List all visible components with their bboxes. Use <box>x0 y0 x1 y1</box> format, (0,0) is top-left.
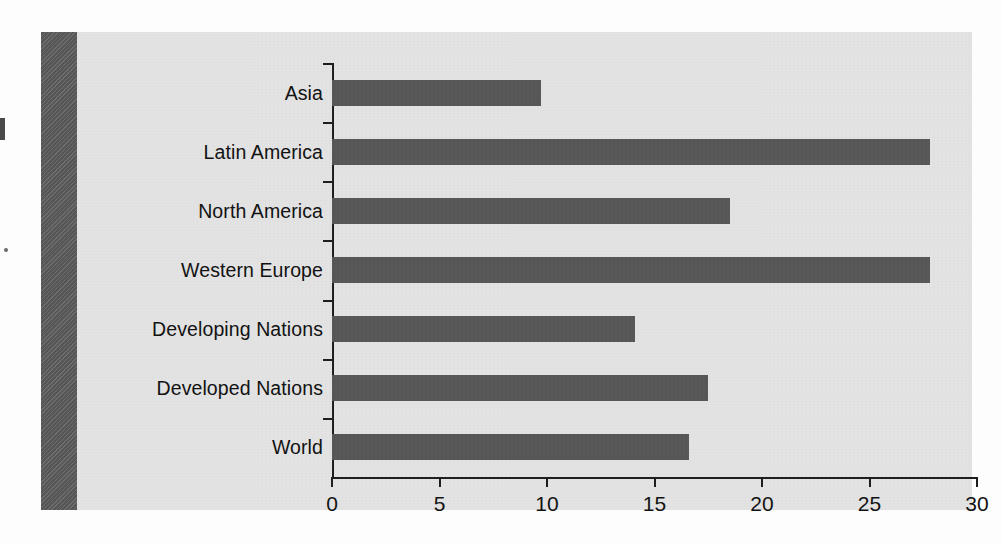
y-axis-tick <box>323 63 333 65</box>
x-axis-tick <box>869 477 871 487</box>
x-axis-tick <box>761 477 763 487</box>
x-axis-tick-label: 20 <box>750 492 773 516</box>
x-axis-tick <box>976 477 978 487</box>
y-axis-tick <box>323 359 333 361</box>
bar-chart-figure: AsiaLatin AmericaNorth AmericaWestern Eu… <box>41 32 972 510</box>
x-axis-tick-label: 25 <box>858 492 881 516</box>
category-label: North America <box>79 199 323 222</box>
x-axis-tick-label: 10 <box>535 492 558 516</box>
x-axis-tick-label: 5 <box>434 492 446 516</box>
x-axis-tick <box>331 477 333 487</box>
bar <box>332 434 689 460</box>
category-label: Latin America <box>79 140 323 163</box>
bar <box>332 257 930 283</box>
y-axis-tick <box>323 181 333 183</box>
y-axis-tick <box>323 300 333 302</box>
y-axis-tick <box>323 122 333 124</box>
plot-area: AsiaLatin AmericaNorth AmericaWestern Eu… <box>77 32 972 510</box>
category-axis-labels: AsiaLatin AmericaNorth AmericaWestern Eu… <box>77 32 323 510</box>
x-axis-tick <box>439 477 441 487</box>
category-label: Asia <box>79 81 323 104</box>
bar <box>332 316 635 342</box>
category-label: World <box>79 436 323 459</box>
category-label: Western Europe <box>79 259 323 282</box>
scan-registration-mark-icon <box>0 118 5 140</box>
figure-gutter-band <box>41 32 77 510</box>
x-axis-tick-label: 30 <box>965 492 988 516</box>
x-axis-tick <box>546 477 548 487</box>
x-axis-tick-label: 0 <box>326 492 338 516</box>
y-axis-tick <box>323 240 333 242</box>
bar <box>332 139 930 165</box>
x-axis-tick <box>654 477 656 487</box>
category-label: Developed Nations <box>79 377 323 400</box>
bar <box>332 198 730 224</box>
category-label: Developing Nations <box>79 318 323 341</box>
scanned-page: AsiaLatin AmericaNorth AmericaWestern Eu… <box>0 0 1002 544</box>
bar <box>332 80 541 106</box>
scan-speck-icon <box>4 248 8 252</box>
x-axis-tick-label: 15 <box>643 492 666 516</box>
y-axis-tick <box>323 418 333 420</box>
bar <box>332 375 708 401</box>
